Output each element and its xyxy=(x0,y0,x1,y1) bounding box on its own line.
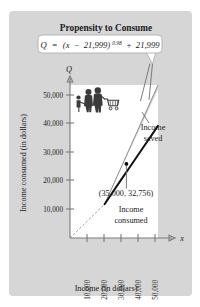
y-tick-label-30000: 30,000 xyxy=(43,149,63,157)
formula-exponent: 0.98 xyxy=(112,40,122,46)
formula-eq: = xyxy=(52,40,58,50)
x-axis-title: Income (in dollars) xyxy=(75,284,138,293)
formula-constant: 21,999 xyxy=(136,40,160,50)
y-tick-label-20000: 20,000 xyxy=(43,177,63,185)
y-tick-label-50000: 50,000 xyxy=(43,92,63,100)
income-saved-label-line1: Income xyxy=(141,123,166,132)
income-saved-label-line2: saved xyxy=(144,134,163,143)
y-axis-variable: Q xyxy=(66,65,72,74)
annotated-point-label: (35,000, 32,756) xyxy=(99,189,154,198)
propensity-to-consume-figure: Propensity to Consume Q = (x − 21,999) 0… xyxy=(0,0,200,307)
y-axis-title: Income consumed (in dollars) xyxy=(19,114,28,212)
annotated-point xyxy=(125,162,129,166)
formula-shift: 21,999) xyxy=(84,40,111,50)
formula-lhs: Q xyxy=(40,40,47,50)
x-tick-label-50000: 50,000 xyxy=(152,280,160,300)
formula-open: (x xyxy=(63,40,70,50)
y-tick-label-40000: 40,000 xyxy=(43,120,63,128)
income-consumed-label-line1: Income xyxy=(119,205,144,214)
y-tick-label-10000: 10,000 xyxy=(43,206,63,214)
x-axis-variable: x xyxy=(179,234,184,243)
figure-title: Propensity to Consume xyxy=(60,23,152,33)
formula-minus: − xyxy=(74,40,80,50)
income-consumed-label-line2: consumed xyxy=(114,216,147,225)
formula-plus: + xyxy=(126,40,132,50)
